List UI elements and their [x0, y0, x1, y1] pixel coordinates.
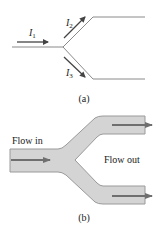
i2-label: I2: [65, 17, 73, 30]
i3-label: I3: [65, 67, 73, 80]
upper-branch-wire: [63, 17, 145, 47]
i1-label: I1: [28, 27, 36, 40]
flow-out-label: Flow out: [104, 154, 140, 165]
pipe-flow-diagram: Flow in Flow out (b): [10, 116, 152, 224]
flow-in-label: Flow in: [12, 135, 43, 146]
caption-b: (b): [78, 212, 90, 224]
lower-branch-wire: [63, 47, 145, 79]
caption-a: (a): [78, 93, 89, 105]
wire-junction-diagram: I1 I2 I3 (a): [12, 17, 145, 105]
junction-diagrams: I1 I2 I3 (a) Flow in Flow out (b): [0, 0, 167, 228]
